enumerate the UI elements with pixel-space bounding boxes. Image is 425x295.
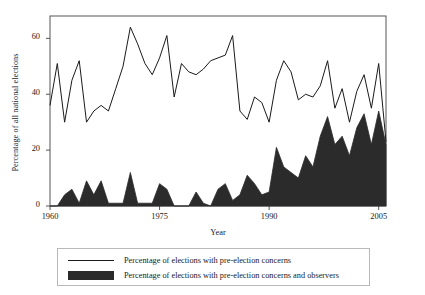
- x-tick-label: 1990: [253, 212, 285, 221]
- x-tick-label: 1975: [144, 212, 176, 221]
- legend-item-concerns: Percentage of elections with pre-electio…: [58, 253, 291, 268]
- y-tick-label: 20: [8, 144, 40, 153]
- chart-legend: Percentage of elections with pre-electio…: [57, 248, 370, 286]
- legend-box-swatch-icon: [58, 271, 124, 280]
- legend-item-label: Percentage of elections with pre-electio…: [124, 271, 339, 280]
- x-tick-label: 2005: [363, 212, 395, 221]
- x-tick-label: 1960: [34, 212, 66, 221]
- legend-item-label: Percentage of elections with pre-electio…: [124, 256, 291, 265]
- y-tick-label: 60: [8, 32, 40, 41]
- x-axis-label: Year: [50, 228, 386, 237]
- chart-figure: Percentage of all national elections Yea…: [0, 0, 425, 295]
- legend-line-swatch-icon: [58, 260, 124, 261]
- y-axis-label: Percentage of all national elections: [11, 13, 20, 213]
- y-axis-ticks: [46, 38, 50, 206]
- legend-item-concerns-and-observers: Percentage of elections with pre-electio…: [58, 268, 339, 283]
- x-axis-ticks: [50, 206, 379, 210]
- y-tick-label: 40: [8, 88, 40, 97]
- y-tick-label: 0: [8, 200, 40, 209]
